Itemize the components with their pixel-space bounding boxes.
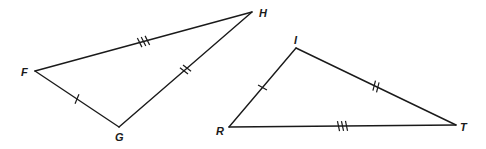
vertex-label-i: I (294, 34, 298, 46)
congruent-triangles-diagram: F G H I R T (0, 0, 486, 149)
congruence-tick-mark (258, 85, 267, 90)
vertex-label-t: T (460, 121, 468, 133)
side-it (296, 48, 456, 125)
vertex-label-h: H (259, 7, 268, 19)
triangle-fgh: F G H (21, 7, 268, 143)
vertex-label-f: F (21, 66, 28, 78)
congruence-tick-mark (75, 94, 79, 103)
vertex-label-g: G (115, 131, 124, 143)
side-gh (119, 12, 252, 127)
tick-marks-rit (258, 81, 379, 131)
triangle-rit: I R T (216, 34, 468, 137)
vertex-label-r: R (216, 125, 224, 137)
tick-marks-fgh (75, 36, 191, 104)
